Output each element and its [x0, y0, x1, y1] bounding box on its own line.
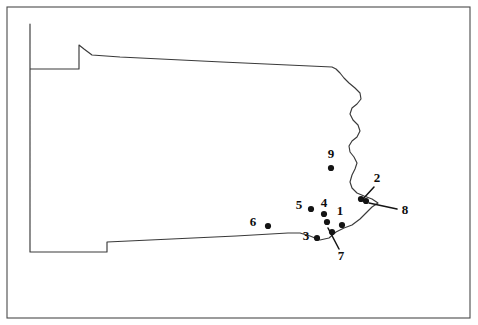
site-label-2: 2	[374, 170, 381, 185]
site-label-4: 4	[321, 195, 328, 210]
site-label-8: 8	[402, 202, 409, 217]
site-dot-9	[328, 165, 334, 171]
site-dot-1	[339, 222, 345, 228]
site-dot-4	[321, 211, 327, 217]
locality-map: 123456789	[0, 0, 478, 325]
site-dot-3	[314, 235, 320, 241]
site-dot-6	[265, 223, 271, 229]
figure-frame	[7, 7, 470, 318]
pennsylvania-state-outline	[30, 24, 378, 252]
site-dot-7	[329, 229, 335, 235]
site-label-7: 7	[338, 248, 345, 263]
site-label-1: 1	[337, 203, 344, 218]
figure-root: 123456789	[0, 0, 478, 325]
site-dot-5	[308, 206, 314, 212]
site-labels-group: 123456789	[250, 146, 409, 263]
site-label-3: 3	[303, 228, 310, 243]
site-dot-8	[363, 198, 369, 204]
site-dot-4b	[324, 219, 330, 225]
site-label-9: 9	[328, 146, 335, 161]
site-label-6: 6	[250, 214, 257, 229]
site-dots-group	[265, 165, 369, 241]
site-label-5: 5	[296, 197, 303, 212]
